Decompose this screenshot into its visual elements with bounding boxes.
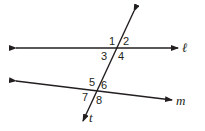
angle-6: 6 (101, 79, 107, 91)
transversal-diagram: ℓ m t 1 2 3 4 5 6 7 8 (0, 0, 205, 131)
angle-1: 1 (109, 35, 115, 47)
angle-3: 3 (101, 50, 107, 62)
label-m: m (176, 93, 185, 108)
label-l: ℓ (182, 40, 188, 55)
diagram-canvas: ℓ m t 1 2 3 4 5 6 7 8 (0, 0, 205, 131)
angle-7: 7 (82, 91, 88, 103)
angle-4: 4 (118, 50, 124, 62)
angle-2: 2 (123, 35, 129, 47)
angle-8: 8 (96, 94, 102, 106)
label-t: t (89, 110, 93, 125)
line-t (83, 11, 134, 121)
angle-5: 5 (89, 76, 95, 88)
